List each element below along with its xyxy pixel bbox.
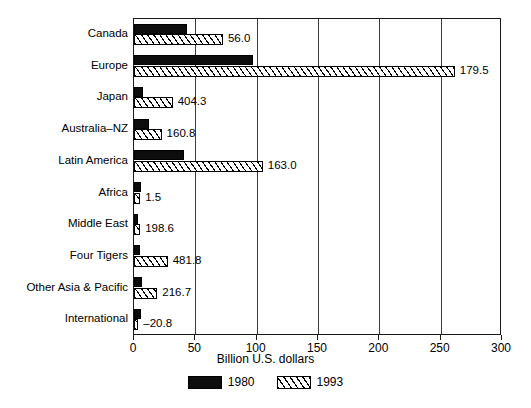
legend-item: 1980 [188,375,255,389]
x-tick-50 [194,335,195,340]
legend-swatch-1993 [277,376,311,389]
chart-legend: 19801993 [0,375,531,389]
x-tick-150 [317,335,318,340]
x-axis: 050100150200250300 [0,0,531,408]
legend-label: 1993 [317,375,344,389]
legend-label: 1980 [228,375,255,389]
x-tick-200 [378,335,379,340]
legend-item: 1993 [277,375,344,389]
x-tick-100 [256,335,257,340]
x-tick-300 [501,335,502,340]
legend-swatch-1980 [188,376,222,389]
x-axis-title: Billion U.S. dollars [0,352,531,366]
bar-chart: CanadaEuropeJapanAustralia–NZLatin Ameri… [0,0,531,408]
x-tick-250 [440,335,441,340]
x-tick-0 [133,335,134,340]
